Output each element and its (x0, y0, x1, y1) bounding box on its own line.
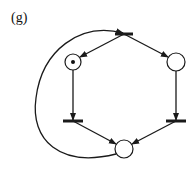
arc-right-transition-to-bottom-place (132, 121, 176, 144)
arc-top-to-right-place (124, 34, 168, 57)
arc-top-to-left-place (80, 34, 124, 57)
arc-left-transition-to-bottom-place (73, 121, 116, 144)
place-bottom (115, 140, 133, 158)
petri-net-diagram (0, 0, 196, 171)
arc-bottom-to-top-transition (35, 31, 123, 158)
place-right (167, 53, 185, 71)
token-dot (71, 60, 75, 64)
